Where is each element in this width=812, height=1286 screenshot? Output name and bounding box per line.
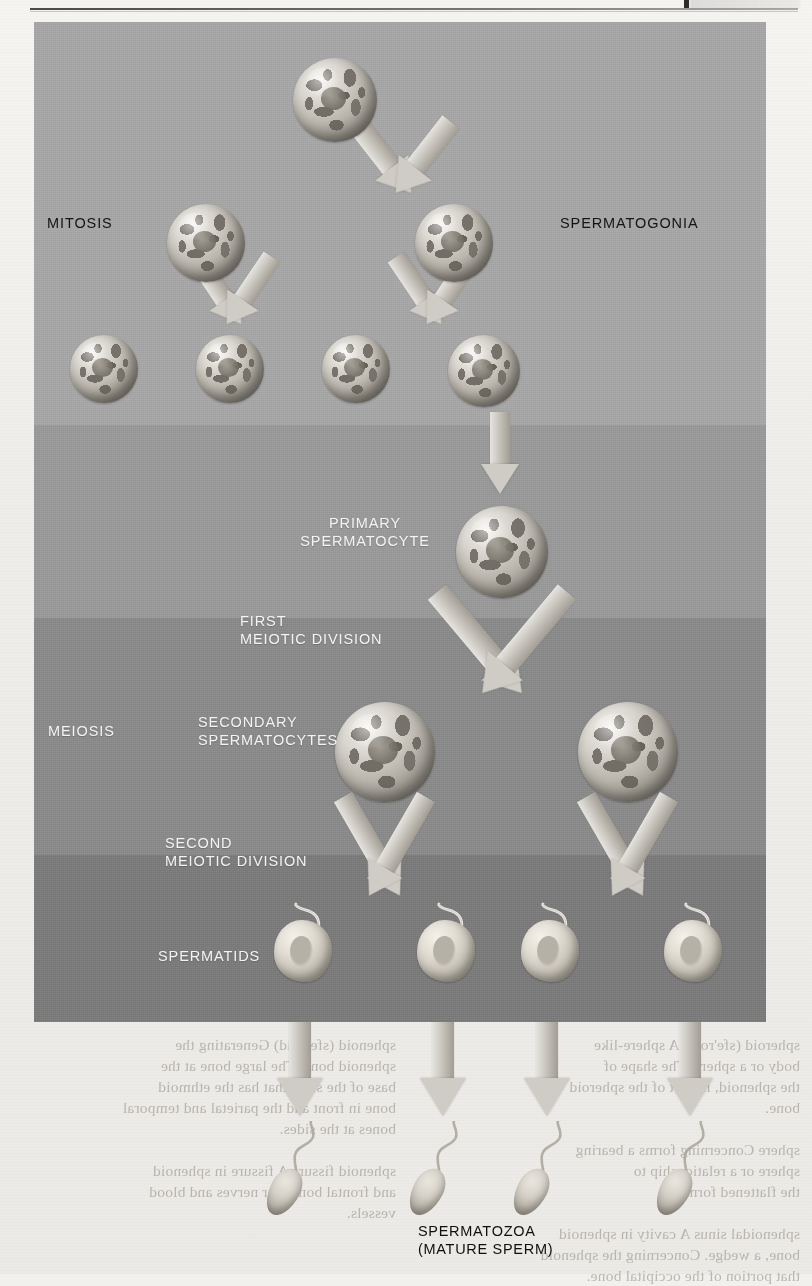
page-header-ghost-text xyxy=(690,0,800,9)
arrow-spermatid-to-spermatozoon-1 xyxy=(272,1022,328,1120)
spermatozoon-4 xyxy=(659,1125,735,1230)
page-top-rule-shadow xyxy=(30,11,798,12)
arrow-spermatid-to-spermatozoon-3 xyxy=(519,1022,575,1120)
page-top-rule xyxy=(30,8,798,10)
cell-spermatogonium-row3-3 xyxy=(322,335,390,403)
spermatozoon-3 xyxy=(516,1125,592,1230)
cell-spermatogonium-row3-4 xyxy=(448,335,520,407)
cell-secondary-spermatocyte-right xyxy=(578,702,678,802)
label-mitosis: MITOSIS xyxy=(47,214,113,232)
label-spermatogonia: SPERMATOGONIA xyxy=(560,214,698,232)
label-first-meiotic-division: FIRST MEIOTIC DIVISION xyxy=(240,612,383,648)
cell-stem-spermatogonium xyxy=(293,58,377,142)
cell-spermatogonium-row3-2 xyxy=(196,335,264,403)
label-secondary-spermatocytes: SECONDARY SPERMATOCYTES xyxy=(198,713,338,749)
spermatid-4 xyxy=(664,902,726,986)
label-second-meiotic-division: SECOND MEIOTIC DIVISION xyxy=(165,834,308,870)
label-meiosis: MEIOSIS xyxy=(48,722,115,740)
spermatogenesis-diagram: MITOSIS SPERMATOGONIA PRIMARY SPERMATOCY… xyxy=(34,22,766,1022)
spermatozoon-2 xyxy=(412,1125,488,1230)
spermatid-3 xyxy=(521,902,583,986)
arrow-to-primary-spermatocyte xyxy=(478,412,522,502)
arrow-spermatid-to-spermatozoon-4 xyxy=(662,1022,718,1120)
cell-spermatogonium-right xyxy=(415,204,493,282)
cell-secondary-spermatocyte-left xyxy=(335,702,435,802)
cell-primary-spermatocyte xyxy=(456,506,548,598)
label-spermatozoa: SPERMATOZOA (MATURE SPERM) xyxy=(418,1222,553,1258)
cell-spermatogonium-left xyxy=(167,204,245,282)
spermatid-1 xyxy=(274,902,336,986)
label-spermatids: SPERMATIDS xyxy=(158,947,260,965)
page-header-mark xyxy=(684,0,689,8)
spermatozoon-1 xyxy=(269,1125,345,1230)
label-primary-spermatocyte: PRIMARY SPERMATOCYTE xyxy=(300,514,430,550)
cell-spermatogonium-row3-1 xyxy=(70,335,138,403)
arrow-spermatid-to-spermatozoon-2 xyxy=(415,1022,471,1120)
spermatid-2 xyxy=(417,902,479,986)
